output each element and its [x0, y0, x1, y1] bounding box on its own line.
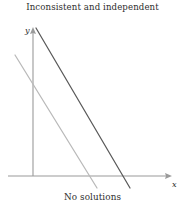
x-axis-label: x [172, 179, 177, 189]
figure-caption: No solutions [0, 192, 185, 202]
line-2 [15, 55, 97, 188]
y-axis [30, 27, 36, 176]
y-axis-arrow-icon [30, 27, 36, 34]
line-1 [36, 28, 130, 188]
y-axis-label: y [25, 25, 30, 35]
x-axis-arrow-icon [165, 173, 172, 179]
figure-container: Inconsistent and independent y x No solu… [0, 0, 185, 216]
